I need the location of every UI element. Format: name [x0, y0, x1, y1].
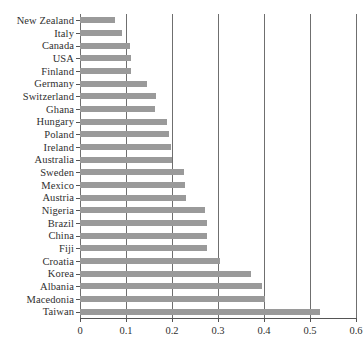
y-axis-tick: [76, 71, 80, 72]
bar: [80, 195, 186, 201]
category-label: Brazil: [0, 218, 74, 229]
gridline-0.6: [356, 14, 357, 318]
bar: [80, 169, 184, 175]
bar: [80, 296, 265, 302]
bar: [80, 220, 207, 226]
y-axis-tick: [76, 236, 80, 237]
category-label: Taiwan: [0, 306, 74, 317]
x-axis-tick: [264, 318, 265, 322]
x-axis-tick-label: 0.2: [165, 325, 178, 337]
gridline-0.5: [310, 14, 311, 318]
y-axis-tick: [76, 147, 80, 148]
x-axis-tick: [310, 318, 311, 322]
y-axis-tick: [76, 84, 80, 85]
category-label: Italy: [0, 28, 74, 39]
y-axis-tick: [76, 46, 80, 47]
x-axis-tick-label: 0.1: [119, 325, 132, 337]
bar: [80, 182, 185, 188]
y-axis-tick: [76, 109, 80, 110]
y-axis-tick: [76, 286, 80, 287]
category-label-column: New ZealandItalyCanadaUSAFinlandGermanyS…: [0, 14, 78, 318]
y-axis-tick: [76, 96, 80, 97]
x-axis-tick-label: 0.4: [257, 325, 270, 337]
y-axis-tick: [76, 172, 80, 173]
bar: [80, 233, 207, 239]
bar: [80, 157, 172, 163]
bar: [80, 271, 251, 277]
x-axis-tick-label: 0.3: [211, 325, 224, 337]
bar: [80, 309, 320, 315]
category-label: Ghana: [0, 104, 74, 115]
category-label: Croatia: [0, 256, 74, 267]
y-axis-tick: [76, 248, 80, 249]
category-label: Canada: [0, 40, 74, 51]
x-axis: 00.10.20.30.40.50.6: [80, 318, 357, 346]
bar: [80, 17, 115, 23]
bar: [80, 106, 155, 112]
x-axis-tick-label: 0: [77, 325, 82, 337]
y-axis-tick: [76, 58, 80, 59]
category-label: Ireland: [0, 142, 74, 153]
bar: [80, 258, 220, 264]
category-label: Albania: [0, 281, 74, 292]
x-axis-tick: [356, 318, 357, 322]
x-axis-tick: [172, 318, 173, 322]
bar: [80, 30, 122, 36]
bar: [80, 43, 130, 49]
category-label: Hungary: [0, 116, 74, 127]
bar: [80, 207, 205, 213]
plot-area: [80, 14, 356, 318]
category-label: Switzerland: [0, 91, 74, 102]
gridline-0.4: [264, 14, 265, 318]
category-label: Austria: [0, 192, 74, 203]
bar: [80, 68, 131, 74]
category-label: Finland: [0, 66, 74, 77]
bar: [80, 81, 147, 87]
bar: [80, 119, 167, 125]
category-label: Nigeria: [0, 205, 74, 216]
category-label: Fiji: [0, 243, 74, 254]
x-axis-tick: [218, 318, 219, 322]
x-axis-tick: [80, 318, 81, 322]
y-axis-tick: [76, 299, 80, 300]
y-axis-tick: [76, 20, 80, 21]
y-axis-tick: [76, 134, 80, 135]
bar: [80, 131, 169, 137]
category-label: USA: [0, 53, 74, 64]
category-label: Australia: [0, 154, 74, 165]
category-label: Macedonia: [0, 294, 74, 305]
category-label: New Zealand: [0, 15, 74, 26]
y-axis-tick: [76, 223, 80, 224]
y-axis-tick: [76, 160, 80, 161]
y-axis-tick: [76, 274, 80, 275]
bar: [80, 144, 171, 150]
category-label: Poland: [0, 129, 74, 140]
x-axis-tick-label: 0.5: [303, 325, 316, 337]
bar: [80, 55, 131, 61]
category-label: Korea: [0, 268, 74, 279]
category-label: Mexico: [0, 180, 74, 191]
category-label: Sweden: [0, 167, 74, 178]
category-label: Germany: [0, 78, 74, 89]
x-axis-tick: [126, 318, 127, 322]
bar: [80, 245, 207, 251]
bar: [80, 283, 262, 289]
y-axis-tick: [76, 261, 80, 262]
bar: [80, 93, 156, 99]
y-axis-tick: [76, 198, 80, 199]
y-axis-tick: [76, 185, 80, 186]
y-axis-tick: [76, 210, 80, 211]
y-axis-tick: [76, 312, 80, 313]
x-axis-tick-label: 0.6: [349, 325, 362, 337]
y-axis-tick: [76, 33, 80, 34]
category-label: China: [0, 230, 74, 241]
y-axis-tick: [76, 122, 80, 123]
